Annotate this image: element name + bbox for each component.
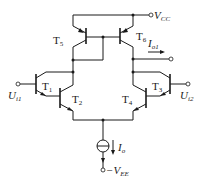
t1-label: T1 [42, 80, 53, 94]
vee-label: −VEE [106, 164, 129, 178]
output-io1 [132, 50, 174, 61]
tail-current-source [73, 119, 133, 173]
output-terminal [169, 57, 173, 61]
t6-label: T6 [136, 30, 147, 44]
t4-label: T4 [122, 93, 133, 107]
io-label: Io [117, 141, 126, 155]
ui2-terminal [186, 82, 190, 86]
io1-label: Io1 [147, 37, 159, 51]
vee-terminal [101, 168, 105, 172]
ui2-label: Ui2 [180, 89, 194, 103]
vcc-label: VCC [154, 9, 170, 23]
transistor-t5 [73, 26, 86, 60]
t5-label: T5 [53, 34, 64, 48]
ui1-terminal [16, 82, 20, 86]
mirror-base-connection [72, 36, 121, 62]
vcc-terminal [149, 13, 153, 17]
transistor-t6 [120, 26, 133, 60]
t2-label: T2 [72, 93, 83, 107]
circuit-schematic: VCC T5 T6 Io1 T1 T2 T3 T4 Ui1 Ui2 Io −VE… [0, 0, 201, 188]
ui1-label: Ui1 [8, 89, 21, 103]
vcc-rail [73, 13, 153, 26]
t3-label: T3 [152, 80, 163, 94]
transistor-t4 [133, 85, 146, 120]
